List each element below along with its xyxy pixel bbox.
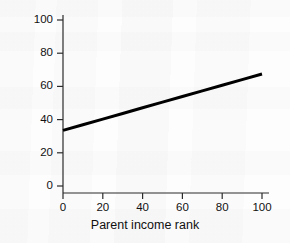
x-axis-title: Parent income rank (0, 219, 290, 232)
x-tick-label-20: 20 (96, 202, 109, 214)
x-tick-label-40: 40 (136, 202, 149, 214)
x-tick-marks (63, 193, 262, 199)
y-tick-marks (57, 20, 63, 186)
y-tick-label-60: 60 (10, 81, 53, 93)
y-tick-label-40: 40 (10, 114, 53, 126)
y-tick-label-20: 20 (10, 147, 53, 159)
y-tick-label-80: 80 (10, 47, 53, 59)
x-tick-label-80: 80 (216, 202, 229, 214)
chart-figure: 100 80 60 40 20 0 0 20 40 60 80 100 Pare… (0, 0, 290, 243)
y-tick-label-0: 0 (10, 180, 53, 192)
data-line-average-child-income-rank (63, 74, 262, 130)
x-tick-label-100: 100 (252, 202, 271, 214)
y-tick-label-100: 100 (10, 14, 53, 26)
x-tick-label-0: 0 (60, 202, 66, 214)
x-tick-label-60: 60 (176, 202, 189, 214)
